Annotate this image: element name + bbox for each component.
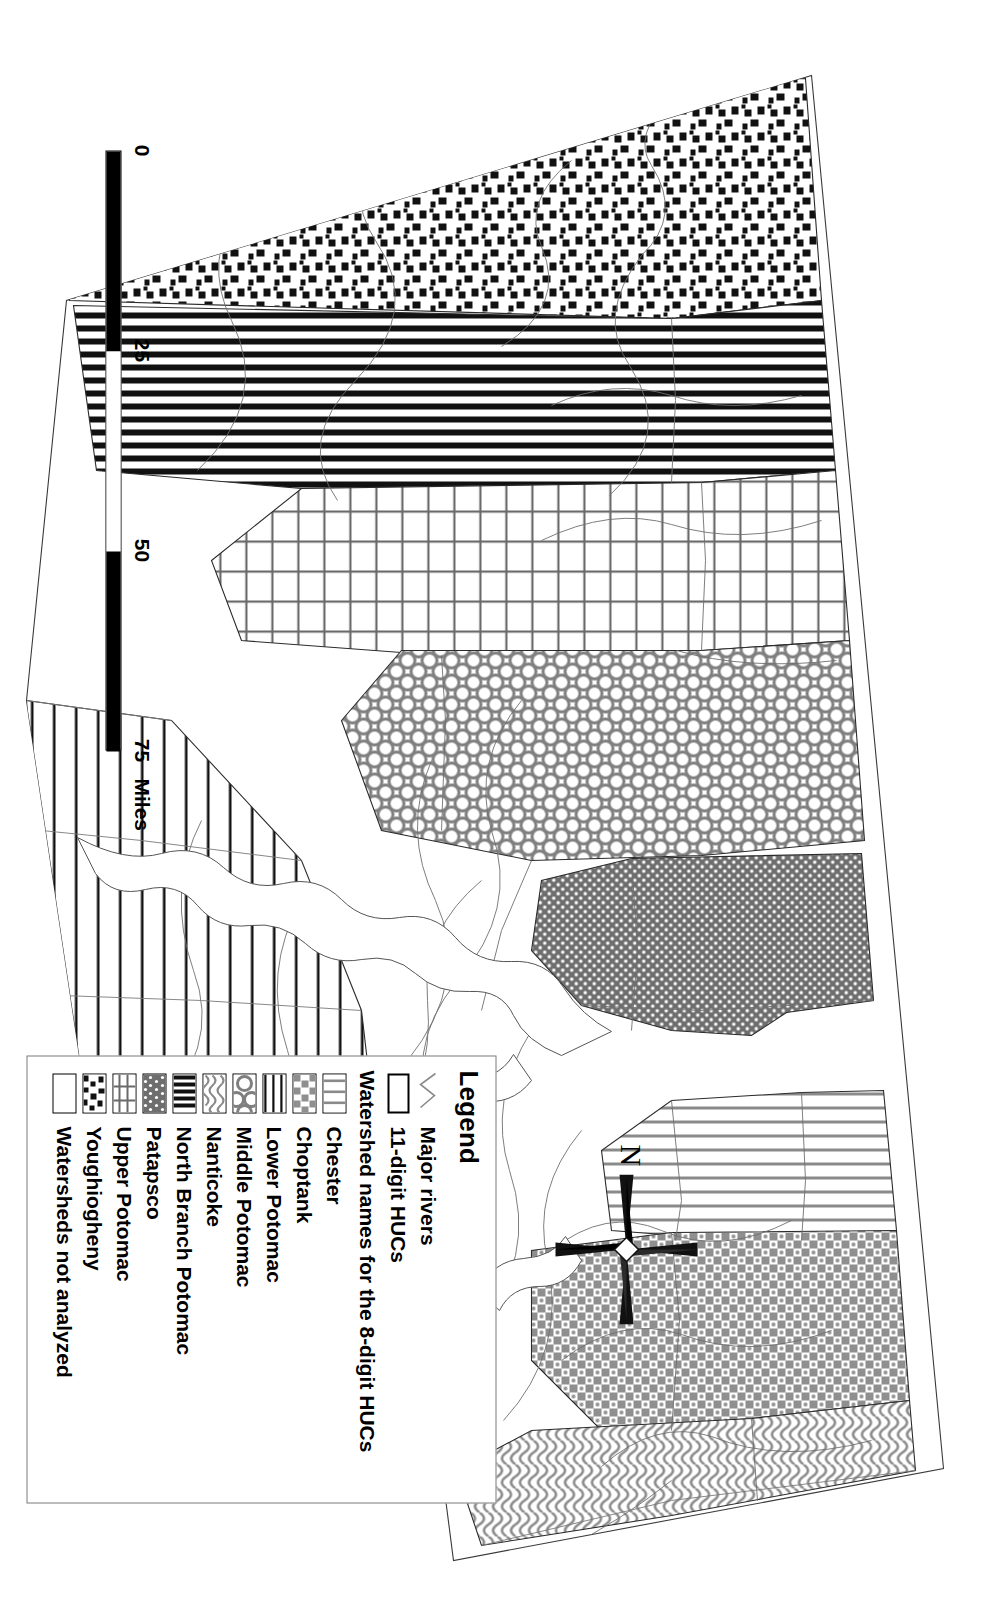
map-figure: 0 25 50 75 Miles N Legend [0,0,1001,1613]
legend-label-upper-potomac: Upper Potomac [114,1126,135,1281]
scale-unit-label: Miles [129,778,153,831]
legend-subheading: Watershed names for the 8-digit HUCs [354,1070,378,1488]
legend-item-choptank[interactable]: Choptank [290,1070,318,1488]
swatch-circles-net-icon [232,1070,256,1116]
scale-tick-0: 0 [129,144,153,156]
scale-bar: 0 25 50 75 Miles [71,150,161,770]
legend-item-lower-potomac[interactable]: Lower Potomac [260,1070,288,1488]
scale-bar-track [105,150,121,750]
north-arrow: N [541,1140,701,1320]
legend-label-huc11: 11-digit HUCs [388,1126,409,1263]
legend-label-nanticoke: Nanticoke [204,1126,225,1226]
legend-item-patapsco[interactable]: Patapsco [140,1070,168,1488]
legend-label-north-branch-potomac: North Branch Potomac [174,1126,195,1355]
legend-title: Legend [452,1070,483,1488]
legend-label-choptank: Choptank [294,1126,315,1223]
legend-label-middle-potomac: Middle Potomac [234,1126,255,1287]
watershed-youghiogheny[interactable] [69,78,821,318]
legend-item-upper-potomac[interactable]: Upper Potomac [110,1070,138,1488]
legend-item-huc11[interactable]: 11-digit HUCs [384,1070,412,1488]
legend-label-major-rivers: Major rivers [418,1126,439,1245]
legend-item-major-rivers[interactable]: Major rivers [414,1070,442,1488]
huc11-outline-icon [386,1070,410,1116]
swatch-scattered-blocks-icon [82,1070,106,1116]
swatch-mottled-checker-icon [292,1070,316,1116]
scale-segment-25-50 [106,351,120,551]
legend-item-middle-potomac[interactable]: Middle Potomac [230,1070,258,1488]
swatch-horizontal-lines-icon [262,1070,286,1116]
swatch-vertical-heavy-bars-icon [172,1070,196,1116]
legend-label-chester: Chester [324,1126,345,1204]
compass-star-icon [551,1174,701,1324]
legend-item-not-analyzed[interactable]: Watersheds not analyzed [50,1070,78,1488]
legend-item-youghiogheny[interactable]: Youghiogheny [80,1070,108,1488]
watershed-middle-potomac[interactable] [341,640,864,860]
watershed-upper-potomac[interactable] [211,470,849,655]
swatch-dense-dots-icon [142,1070,166,1116]
legend-label-not-analyzed: Watersheds not analyzed [54,1126,75,1377]
legend-item-chester[interactable]: Chester [320,1070,348,1488]
legend-panel: Legend Major rivers 11-digit HUCs Waters… [26,1055,496,1503]
swatch-blank-white-icon [52,1070,76,1116]
legend-label-patapsco: Patapsco [144,1126,165,1219]
legend-item-north-branch-potomac[interactable]: North Branch Potomac [170,1070,198,1488]
scale-tick-50: 50 [129,538,153,561]
scale-segment-0-25 [106,151,120,351]
legend-label-youghiogheny: Youghiogheny [84,1126,105,1270]
legend-item-nanticoke[interactable]: Nanticoke [200,1070,228,1488]
scale-segment-50-75 [106,551,120,751]
scale-tick-25: 25 [129,338,153,361]
swatch-grid-icon [112,1070,136,1116]
major-rivers-icon [416,1070,440,1116]
north-arrow-label: N [613,1144,647,1166]
watershed-north-branch-potomac[interactable] [73,300,835,488]
swatch-vertical-thin-lines-icon [322,1070,346,1116]
legend-label-lower-potomac: Lower Potomac [264,1126,285,1282]
scale-tick-75: 75 [129,738,153,761]
swatch-wavy-icon [202,1070,226,1116]
